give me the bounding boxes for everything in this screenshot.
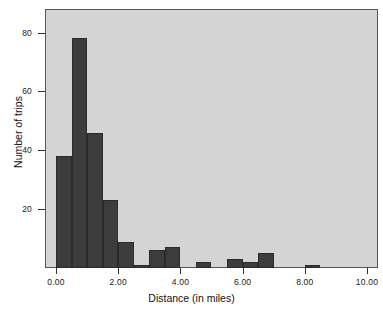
histogram-bar [149,250,165,268]
x-tick-mark [305,268,306,274]
histogram-bar [227,259,243,268]
histogram-bar [103,200,119,268]
x-tick-label: 4.00 [160,277,200,287]
x-axis-label: Distance (in miles) [0,292,383,304]
y-tick-label: 20 [6,204,32,214]
bars-layer [45,9,378,268]
x-tick-label: 6.00 [223,277,263,287]
x-tick-mark [180,268,181,274]
x-tick-label: 8.00 [285,277,325,287]
x-tick-mark [56,268,57,274]
x-tick-label: 2.00 [98,277,138,287]
histogram-bar [134,265,150,268]
y-tick-label: 80 [6,28,32,38]
histogram-chart: 20406080 0.002.004.006.008.0010.00 Dista… [0,0,383,314]
histogram-bar [196,262,212,268]
histogram-bar [165,247,181,268]
histogram-bar [72,38,88,268]
histogram-bar [118,242,134,268]
histogram-bar [305,265,321,268]
y-axis-label: Number of trips [12,62,24,202]
y-tick-mark [38,91,45,92]
x-tick-mark [243,268,244,274]
x-tick-mark [367,268,368,274]
x-tick-label: 0.00 [36,277,76,287]
y-tick-mark [38,33,45,34]
x-tick-label: 10.00 [347,277,383,287]
histogram-bar [87,133,103,268]
histogram-bar [243,262,259,268]
y-tick-mark [38,209,45,210]
histogram-bar [258,253,274,268]
histogram-bar [56,156,72,268]
y-tick-mark [38,150,45,151]
x-tick-mark [118,268,119,274]
